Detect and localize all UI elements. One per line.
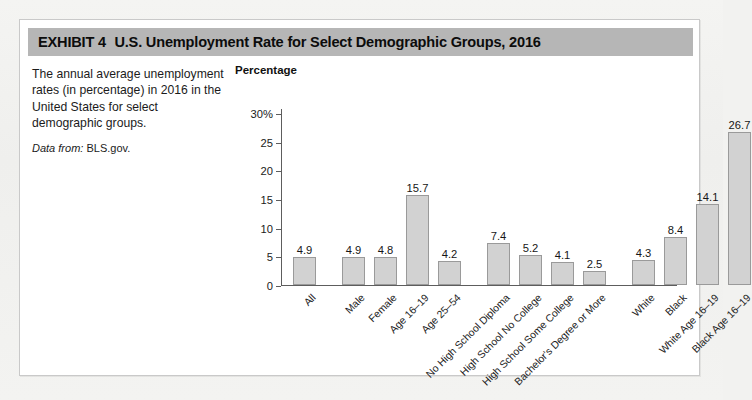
exhibit-title-text: U.S. Unemployment Rate for Select Demogr…	[114, 33, 540, 50]
x-axis-line	[281, 285, 677, 286]
y-axis-tick-mark	[276, 171, 281, 172]
y-axis-tick-label: 5	[267, 251, 273, 263]
description-text: The annual average unemployment rates (i…	[32, 66, 224, 132]
x-axis-tick-label: Black	[663, 292, 689, 318]
bar-value-label: 14.1	[697, 191, 719, 203]
y-axis-tick-label: 25	[261, 137, 273, 149]
y-axis-tick-mark	[276, 229, 281, 230]
x-axis-label-wrapper: All	[301, 292, 317, 308]
bar-value-label: 15.7	[407, 182, 429, 194]
bar-value-label: 4.1	[555, 249, 571, 261]
bar-value-label: 4.9	[297, 244, 313, 256]
y-axis-tick-mark	[276, 143, 281, 144]
bar: 5.2	[519, 255, 542, 285]
y-axis-title: Percentage	[235, 64, 297, 76]
bar: 4.8	[374, 257, 397, 285]
y-axis-tick-label: 15	[261, 194, 273, 206]
exhibit-label: EXHIBIT 4	[38, 33, 106, 50]
bar-value-label: 8.4	[668, 224, 684, 236]
bar: 4.1	[551, 262, 574, 286]
bar-value-label: 4.9	[346, 244, 362, 256]
bar: 26.7	[728, 132, 751, 285]
y-axis-tick-mark	[276, 257, 281, 258]
description-source: Data from: BLS.gov.	[32, 142, 224, 154]
bar-value-label: 7.4	[491, 230, 507, 242]
y-axis-line	[281, 109, 282, 286]
bar-value-label: 26.7	[729, 119, 751, 131]
x-axis-tick-label: All	[301, 292, 317, 308]
bar: 14.1	[696, 204, 719, 285]
y-axis-tick-label: 30%	[251, 108, 273, 120]
y-axis-tick-mark	[276, 286, 281, 287]
source-label: Data from:	[32, 142, 83, 154]
x-axis-tick-label: Male	[343, 292, 367, 316]
bar: 7.4	[487, 243, 510, 285]
exhibit-title-banner: EXHIBIT 4U.S. Unemployment Rate for Sele…	[28, 28, 693, 56]
y-axis-tick-label: 0	[267, 280, 273, 292]
bar-value-label: 2.5	[587, 258, 603, 270]
exhibit-panel: EXHIBIT 4U.S. Unemployment Rate for Sele…	[19, 19, 700, 376]
bar: 8.4	[664, 237, 687, 285]
y-axis-tick-label: 20	[261, 165, 273, 177]
description-column: The annual average unemployment rates (i…	[32, 66, 224, 154]
x-axis-label-wrapper: White	[630, 292, 657, 319]
bar: 15.7	[406, 195, 429, 285]
exhibit-title: EXHIBIT 4U.S. Unemployment Rate for Sele…	[38, 33, 541, 51]
bar: 4.3	[632, 260, 655, 285]
bar: 4.2	[438, 261, 461, 285]
bar: 4.9	[293, 257, 316, 285]
y-axis-tick-label: 10	[261, 223, 273, 235]
chart: Percentage 051015202530%4.9All4.9Male4.8…	[223, 64, 693, 369]
x-axis-tick-label: White	[630, 292, 657, 319]
bar-value-label: 4.8	[378, 244, 394, 256]
plot-area: 051015202530%4.9All4.9Male4.8Female15.7A…	[281, 114, 677, 286]
bar-value-label: 5.2	[523, 242, 539, 254]
bar: 2.5	[583, 271, 606, 285]
x-axis-label-wrapper: Black	[663, 292, 689, 318]
bar: 4.9	[342, 257, 365, 285]
y-axis-tick-mark	[276, 200, 281, 201]
x-axis-label-wrapper: Male	[343, 292, 367, 316]
y-axis-tick-mark	[276, 114, 281, 115]
bar-value-label: 4.3	[636, 247, 652, 259]
source-value: BLS.gov.	[86, 142, 130, 154]
x-axis-tick-label: Female	[366, 292, 398, 324]
x-axis-label-wrapper: Female	[366, 292, 398, 324]
bar-value-label: 4.2	[442, 248, 458, 260]
